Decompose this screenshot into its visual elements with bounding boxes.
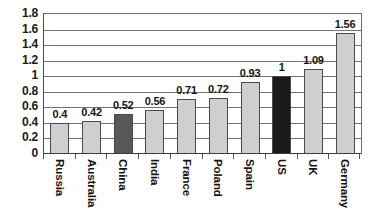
category-label-france: France bbox=[180, 159, 192, 196]
y-tick-label: 1.2 bbox=[22, 54, 38, 66]
category-label-uk: UK bbox=[307, 159, 319, 175]
y-tick-label: 0.2 bbox=[22, 131, 38, 143]
bar-value-label: 0.56 bbox=[139, 96, 171, 107]
category-label-slot: Poland bbox=[202, 159, 234, 217]
bar-poland bbox=[209, 98, 228, 154]
x-axis-category-labels: RussiaAustraliaChinaIndiaFrancePolandSpa… bbox=[43, 159, 360, 217]
bar-uk bbox=[304, 69, 323, 154]
category-label-slot: Australia bbox=[75, 159, 107, 217]
category-label-slot: China bbox=[106, 159, 138, 217]
bar-china bbox=[114, 114, 133, 154]
bar-germany bbox=[336, 33, 355, 154]
category-label-poland: Poland bbox=[212, 159, 224, 197]
category-label-slot: Russia bbox=[43, 159, 75, 217]
plot-area: 0.40.420.520.560.710.720.9311.091.56 bbox=[43, 13, 362, 154]
bar-chart: 00.20.40.60.811.21.41.61.8 0.40.420.520.… bbox=[0, 0, 377, 217]
bar-russia bbox=[50, 123, 69, 154]
bar-value-label: 0.42 bbox=[76, 107, 108, 118]
y-tick-label: 1.6 bbox=[22, 23, 38, 35]
bar-australia bbox=[82, 121, 101, 154]
bar-value-label: 1.09 bbox=[298, 55, 330, 66]
category-label-slot: UK bbox=[297, 159, 329, 217]
category-label-germany: Germany bbox=[338, 159, 350, 208]
y-tick-label: 0.6 bbox=[22, 100, 38, 112]
category-label-spain: Spain bbox=[243, 159, 255, 190]
category-label-china: China bbox=[116, 159, 128, 190]
y-tick-label: 0.4 bbox=[22, 116, 38, 128]
category-label-australia: Australia bbox=[85, 159, 97, 207]
category-label-slot: Germany bbox=[328, 159, 360, 217]
category-label-us: US bbox=[275, 159, 287, 175]
bar-value-label: 1 bbox=[266, 62, 298, 73]
y-tick-label: 1.4 bbox=[22, 38, 38, 50]
y-tick-label: 1 bbox=[32, 69, 38, 81]
y-tick-label: 0 bbox=[32, 147, 38, 159]
y-tick-label: 1.8 bbox=[22, 7, 38, 19]
category-label-slot: US bbox=[265, 159, 297, 217]
bar-value-label: 1.56 bbox=[329, 19, 361, 30]
category-label-slot: Spain bbox=[233, 159, 265, 217]
bar-value-label: 0.93 bbox=[234, 68, 266, 79]
bar-us bbox=[272, 76, 291, 154]
bar-value-label: 0.4 bbox=[44, 109, 76, 120]
bar-india bbox=[145, 110, 164, 154]
bar-value-label: 0.71 bbox=[171, 85, 203, 96]
y-tick-label: 0.8 bbox=[22, 85, 38, 97]
bar-value-label: 0.72 bbox=[203, 84, 235, 95]
bar-value-label: 0.52 bbox=[107, 100, 139, 111]
bar-france bbox=[177, 99, 196, 154]
bar-spain bbox=[241, 82, 260, 154]
y-axis: 00.20.40.60.811.21.41.61.8 bbox=[0, 0, 41, 217]
bars-layer: 0.40.420.520.560.710.720.9311.091.56 bbox=[44, 14, 361, 154]
category-label-india: India bbox=[148, 159, 160, 185]
category-label-slot: India bbox=[138, 159, 170, 217]
category-label-russia: Russia bbox=[53, 159, 65, 196]
category-label-slot: France bbox=[170, 159, 202, 217]
